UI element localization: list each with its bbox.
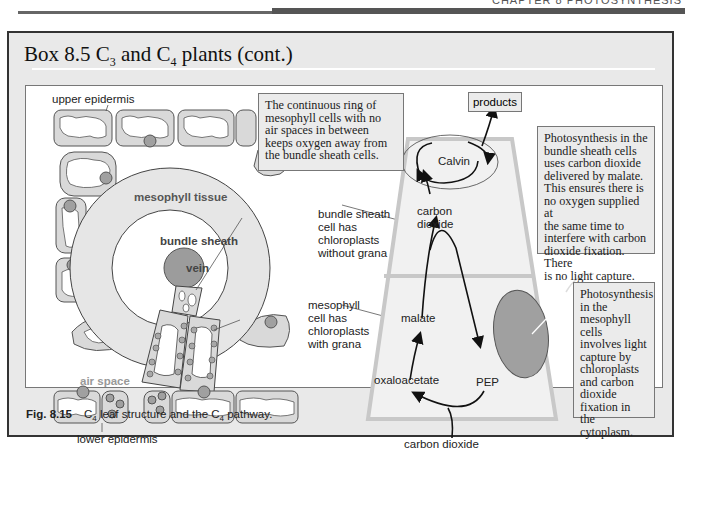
- label-line: dioxide: [417, 218, 453, 231]
- note-line: chloroplasts: [580, 363, 648, 376]
- label-line: bundle sheath: [318, 208, 390, 221]
- label-mesophyll-tissue: mesophyll tissue: [134, 191, 227, 204]
- note-line: cytoplasm.: [580, 426, 648, 439]
- label-line: cell has: [318, 221, 390, 234]
- label-pep: PEP: [476, 376, 499, 389]
- label-bundle-sheath: bundle sheath: [160, 235, 238, 248]
- figure-caption: Fig. 8.15C4 leaf structure and the C4 pa…: [26, 408, 272, 423]
- label-air-space: air space: [80, 375, 130, 388]
- note-line: dioxide fixation. There: [544, 245, 648, 270]
- caption-text: pathway.: [224, 408, 272, 420]
- products-box: products: [468, 92, 522, 112]
- note-line: involves light: [580, 338, 648, 351]
- label-carbon-dioxide-lower: carbon dioxide: [404, 438, 479, 451]
- label-oxaloacetate: oxaloacetate: [374, 374, 439, 387]
- label-line: without grana: [318, 247, 390, 260]
- label-line: carbon: [417, 205, 453, 218]
- label-line: mesophyll: [308, 299, 369, 312]
- note-line: This ensures there is: [544, 182, 648, 195]
- label-malate: malate: [401, 312, 436, 325]
- note-continuous-ring: The continuous ring of mesophyll cells w…: [258, 93, 404, 171]
- figure-number: Fig. 8.15: [26, 408, 72, 420]
- note-line: fixation in the: [580, 401, 648, 426]
- label-lower-epidermis: lower epidermis: [77, 433, 158, 446]
- label-upper-epidermis: upper epidermis: [52, 93, 134, 106]
- note-bundle-sheath-photosynthesis: Photosynthesis in the bundle sheath cell…: [537, 126, 655, 254]
- label-line: cell has: [308, 312, 369, 325]
- caption-text: leaf structure and the C: [97, 408, 220, 420]
- note-mesophyll-photosynthesis: Photosynthesis in the mesophyll cells in…: [573, 282, 655, 418]
- note-line: is no light capture.: [544, 270, 648, 283]
- label-bundle-sheath-cell: bundle sheath cell has chloroplasts with…: [318, 208, 390, 260]
- note-line: The continuous ring of: [265, 99, 397, 112]
- note-line: Photosynthesis: [580, 288, 648, 301]
- note-line: no oxygen supplied at: [544, 195, 648, 220]
- label-mesophyll-cell: mesophyll cell has chloroplasts with gra…: [308, 299, 369, 351]
- note-line: mesophyll cells: [580, 313, 648, 338]
- note-line: interfere with carbon: [544, 232, 648, 245]
- label-calvin: Calvin: [438, 155, 470, 168]
- label-vein: vein: [186, 262, 209, 275]
- label-line: with grana: [308, 338, 369, 351]
- note-line: air spaces in between: [265, 124, 397, 137]
- label-line: chloroplasts: [318, 234, 390, 247]
- note-line: the bundle sheath cells.: [265, 149, 397, 162]
- label-line: chloroplasts: [308, 325, 369, 338]
- note-line: uses carbon dioxide: [544, 157, 648, 170]
- label-carbon-dioxide-upper: carbon dioxide: [417, 205, 453, 231]
- note-line: dioxide: [580, 388, 648, 401]
- note-line: Photosynthesis in the: [544, 132, 648, 145]
